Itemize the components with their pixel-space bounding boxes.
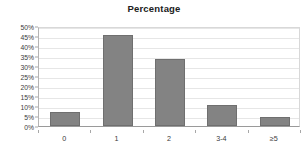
bar: [155, 59, 185, 126]
y-tick-label: 50%: [20, 24, 34, 31]
x-tick-mark: [195, 130, 196, 133]
x-tick-mark: [143, 130, 144, 133]
y-tick-label: 20%: [20, 84, 34, 91]
x-tick-mark: [90, 130, 91, 133]
bar-chart: Percentage 50%45%40%35%30%25%20%15%10%5%…: [0, 0, 308, 156]
bar: [260, 117, 290, 126]
y-tick-label: 15%: [20, 94, 34, 101]
y-tick-label: 5%: [24, 114, 34, 121]
x-tick-label: ≥5: [270, 134, 278, 143]
y-tick-label: 45%: [20, 34, 34, 41]
bar: [207, 105, 237, 126]
x-tick-mark: [248, 130, 249, 133]
x-tick-mark: [300, 130, 301, 133]
y-tick-label: 10%: [20, 104, 34, 111]
x-tick-label: 1: [115, 134, 119, 143]
gridline: [39, 128, 299, 129]
x-tick-mark: [38, 130, 39, 133]
y-tick-label: 25%: [20, 74, 34, 81]
x-tick-label: 2: [167, 134, 171, 143]
y-tick-label: 40%: [20, 44, 34, 51]
x-tick-label: 0: [62, 134, 66, 143]
chart-title: Percentage: [0, 3, 308, 14]
y-tick-label: 35%: [20, 54, 34, 61]
x-tick-label: 3-4: [216, 134, 226, 143]
bar: [50, 112, 80, 126]
y-tick-label: 30%: [20, 64, 34, 71]
y-axis: 50%45%40%35%30%25%20%15%10%5%0%: [0, 27, 34, 127]
x-axis: 0123-4≥5: [38, 130, 300, 150]
bars-layer: [39, 28, 299, 126]
bar: [103, 35, 133, 126]
plot-area: [38, 27, 300, 127]
y-tick-label: 0%: [24, 124, 34, 131]
